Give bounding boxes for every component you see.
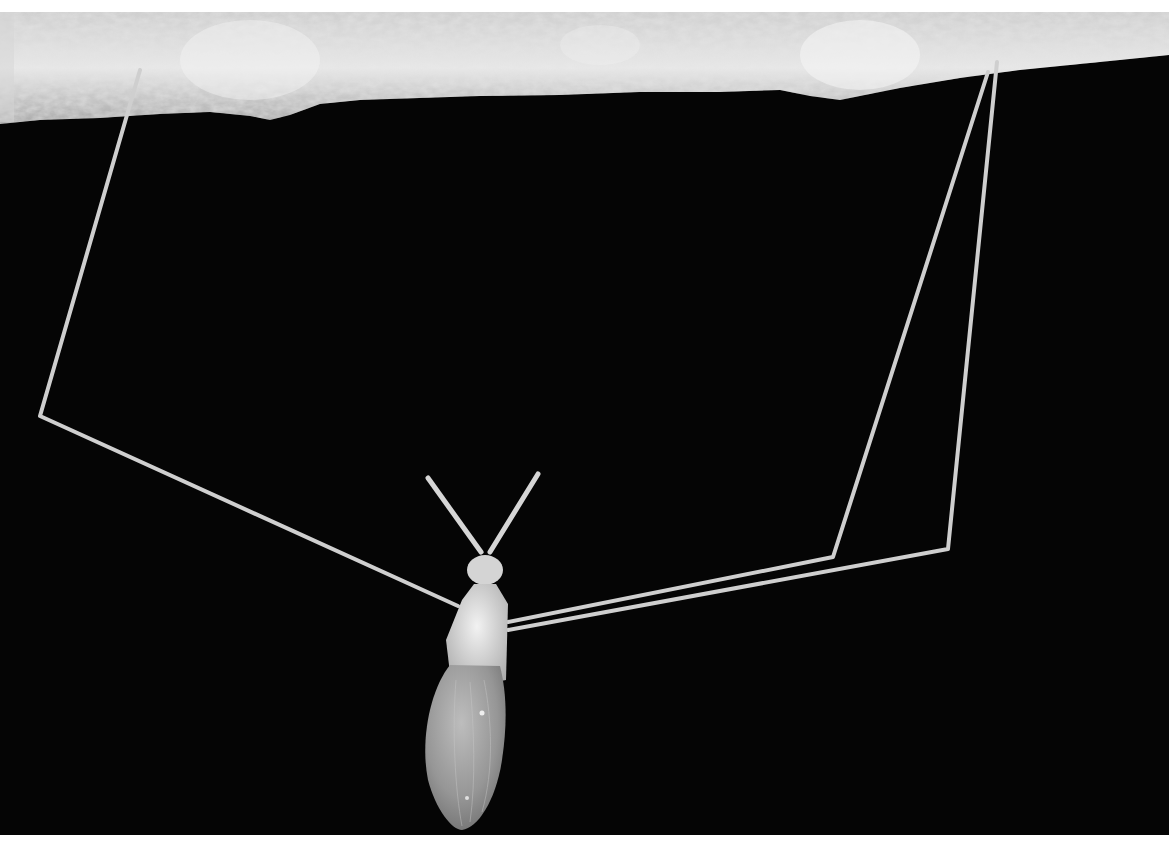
- photo-canvas: [0, 0, 1169, 850]
- insect-photograph: [0, 0, 1169, 850]
- black-background: [0, 12, 1169, 835]
- insect-head: [467, 555, 503, 585]
